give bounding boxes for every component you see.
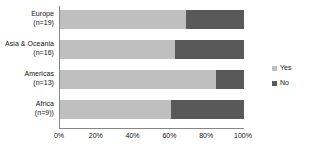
- bar-segment-no: [175, 40, 244, 59]
- bar-segment-no: [171, 100, 244, 119]
- y-axis-label-europe-line1: Europe: [0, 10, 54, 19]
- x-axis-tick-labels: 0%20%40%60%80%100%: [59, 131, 243, 145]
- x-axis-tick-0: 0%: [54, 131, 64, 140]
- bar-segment-no: [186, 10, 244, 29]
- y-axis-label-africa: Africa (n=9)): [0, 100, 54, 117]
- y-axis-label-asia-oceania-line2: (n=16): [0, 49, 54, 58]
- y-axis-label-africa-line2: (n=9)): [0, 109, 54, 118]
- legend: Yes No: [272, 64, 316, 94]
- x-axis-tick-40: 40%: [126, 131, 140, 140]
- y-axis-label-asia-oceania: Asia & Oceania (n=16): [0, 40, 54, 57]
- bars-container: [60, 6, 244, 128]
- plot-area: [59, 6, 244, 129]
- bar-segment-yes: [60, 10, 186, 29]
- bar-segment-yes: [60, 70, 216, 89]
- stacked-bar-chart: Europe (n=19) Asia & Oceania (n=16) Amer…: [0, 0, 318, 160]
- legend-swatch-no-icon: [272, 81, 277, 86]
- y-axis-label-americas-line1: Americas: [0, 70, 54, 79]
- y-axis-label-americas: Americas (n=13): [0, 70, 54, 87]
- x-axis-tick-60: 60%: [162, 131, 176, 140]
- bar-segment-yes: [60, 40, 175, 59]
- y-axis-label-americas-line2: (n=13): [0, 79, 54, 88]
- x-axis-tick-20: 20%: [89, 131, 103, 140]
- legend-item-yes: Yes: [272, 64, 316, 72]
- table-row: [60, 40, 244, 59]
- y-axis-label-europe: Europe (n=19): [0, 10, 54, 27]
- y-axis-label-europe-line2: (n=19): [0, 19, 54, 28]
- y-axis-label-asia-oceania-line1: Asia & Oceania: [0, 40, 54, 49]
- legend-item-no: No: [272, 79, 316, 87]
- bar-segment-no: [216, 70, 244, 89]
- x-axis-tick-100: 100%: [234, 131, 252, 140]
- x-axis-tick-80: 80%: [199, 131, 213, 140]
- table-row: [60, 100, 244, 119]
- legend-swatch-yes-icon: [272, 66, 277, 71]
- bar-segment-yes: [60, 100, 171, 119]
- legend-label-no: No: [280, 79, 289, 87]
- table-row: [60, 10, 244, 29]
- y-axis-category-labels: Europe (n=19) Asia & Oceania (n=16) Amer…: [0, 6, 56, 126]
- y-axis-label-africa-line1: Africa: [0, 100, 54, 109]
- table-row: [60, 70, 244, 89]
- legend-label-yes: Yes: [280, 64, 291, 72]
